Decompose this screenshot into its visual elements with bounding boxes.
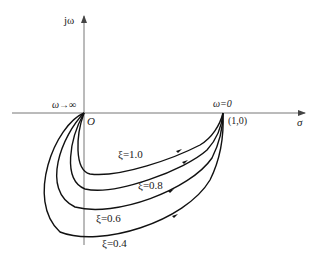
imaginary-axis-label: jω [63,14,74,26]
nyquist-diagram: jω σ O ω→∞ ω=0 (1,0) ξ=1.0 ξ=0.8 ξ=0.6 ξ… [0,0,315,263]
label-xi-0-4: ξ=0.4 [102,237,127,250]
curve-xi-1-0 [78,113,223,175]
omega-zero-label: ω=0 [213,98,232,109]
real-axis-label: σ [297,116,303,128]
label-xi-0-6: ξ=0.6 [96,212,121,225]
omega-infinity-label: ω→∞ [52,99,76,110]
origin-label: O [87,115,95,127]
arrow-xi-1-0 [176,149,182,153]
label-xi-1-0: ξ=1.0 [118,148,143,161]
arrow-xi-0-4 [172,214,178,218]
point-one-zero-label: (1,0) [228,115,247,127]
label-xi-0-8: ξ=0.8 [138,179,163,192]
